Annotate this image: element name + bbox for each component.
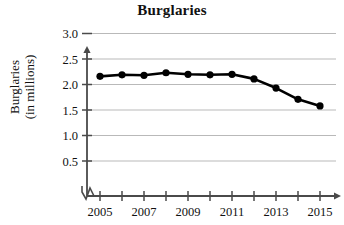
axis-break-icon <box>82 186 94 199</box>
data-point <box>140 72 147 79</box>
x-axis-tick-label: 2005 <box>88 205 113 219</box>
y-axis-tick-label: 0.5 <box>62 155 78 169</box>
y-axis-tick-label: 1.5 <box>62 104 78 118</box>
x-axis-arrowhead <box>334 192 341 199</box>
data-point <box>294 96 301 103</box>
burglaries-line-chart: Burglaries Burglaries (in millions) 3.02… <box>0 0 344 225</box>
x-axis-tick-label: 2011 <box>220 205 245 219</box>
plot-area: 3.02.52.01.51.00.5 200520072009201120132… <box>0 0 344 225</box>
data-point <box>184 71 191 78</box>
data-point <box>316 102 323 109</box>
y-axis-tick-label: 1.0 <box>62 129 78 143</box>
y-axis-tick-label: 2.5 <box>62 53 78 67</box>
y-axis-tick-labels: 3.02.52.01.51.00.5 <box>62 27 78 169</box>
x-axis-tick-label: 2015 <box>308 205 333 219</box>
data-point <box>118 71 125 78</box>
data-point <box>96 73 103 80</box>
data-point <box>250 75 257 82</box>
y-axis-arrowhead <box>83 46 90 53</box>
data-point <box>228 71 235 78</box>
y-axis-tick-label: 3.0 <box>62 27 78 41</box>
x-axis-tick-label: 2009 <box>176 205 201 219</box>
x-axis-tick-labels: 200520072009201120132015 <box>88 205 333 219</box>
data-point <box>162 69 169 76</box>
x-axis-tick-label: 2007 <box>132 205 157 219</box>
y-axis-tick-label: 2.0 <box>62 78 78 92</box>
data-point <box>272 84 279 91</box>
data-point <box>206 71 213 78</box>
x-axis-tick-label: 2013 <box>264 205 289 219</box>
